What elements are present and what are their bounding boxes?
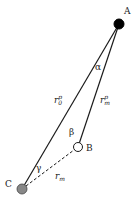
- angle-alpha: α: [95, 63, 101, 72]
- label-rmp: rpm: [100, 94, 114, 105]
- rm-sub: m: [59, 175, 65, 182]
- label-r0p: rp0: [54, 94, 66, 105]
- label-b: B: [86, 144, 93, 153]
- r0p-sub: 0: [58, 99, 62, 106]
- edge-c-b-dashed: [22, 147, 78, 189]
- point-c: [17, 184, 27, 194]
- point-a: [114, 19, 124, 29]
- angle-beta: β: [69, 128, 74, 137]
- triangle-diagram: A B C α β γ rp0 rpm rm: [0, 0, 140, 203]
- rmp-sub: m: [104, 99, 110, 106]
- angle-gamma: γ: [36, 164, 41, 173]
- label-rm: rm: [55, 172, 65, 182]
- label-c: C: [5, 180, 12, 189]
- edge-a-b: [78, 24, 119, 147]
- label-a: A: [124, 7, 131, 16]
- point-b: [74, 143, 83, 152]
- diagram-lines: [0, 0, 140, 203]
